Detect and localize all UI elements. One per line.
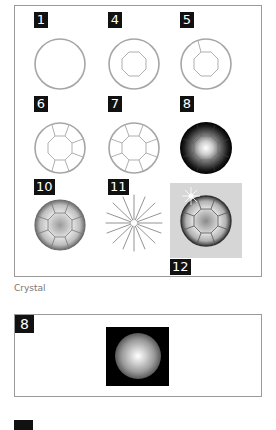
step-label-1: 1 [34, 12, 48, 28]
step-label-10: 10 [34, 179, 55, 195]
figure-frame: 1 4 5 6 7 8 [14, 5, 262, 277]
step-7-all-facets-icon [107, 121, 161, 175]
step-label-7: 7 [108, 96, 122, 112]
radial-glow [115, 333, 161, 379]
step-4-octagon-icon [107, 37, 161, 91]
step-label-4: 4 [108, 12, 122, 28]
step-6-partial-facets-icon [33, 121, 87, 175]
step-label-6: 6 [34, 96, 48, 112]
next-figure-label [14, 420, 33, 430]
step-11-sparkle-icon [105, 193, 163, 253]
figure-caption: Crystal [14, 283, 46, 293]
detail-figure-frame: 8 [14, 314, 262, 397]
step-label-12: 12 [170, 259, 191, 275]
step-1-circle-icon [33, 37, 87, 91]
step-10-shaded-crystal-icon [33, 198, 87, 252]
gradient-square-swatch [106, 327, 169, 386]
step-12-sparkle-icon [181, 186, 201, 206]
step-label-8: 8 [180, 96, 194, 112]
step-label-5: 5 [180, 12, 194, 28]
step-8-gradient-sphere-icon [179, 121, 233, 175]
step-5-facet-line-icon [179, 37, 233, 91]
detail-step-label-8: 8 [15, 315, 34, 333]
